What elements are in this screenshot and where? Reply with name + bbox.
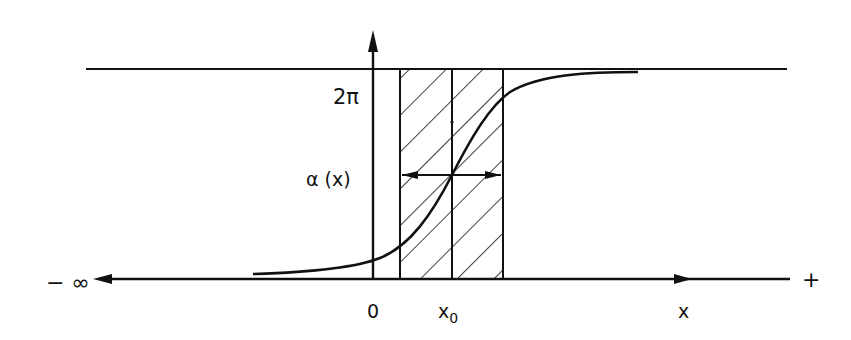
label-2pi: 2π — [333, 85, 359, 109]
center-dot — [450, 120, 453, 123]
label-minus-infinity: − ∞ — [46, 270, 90, 295]
label-axis-x: x — [678, 300, 689, 322]
left-arrowhead-icon — [93, 274, 112, 284]
right-arrow-mark-icon — [674, 274, 692, 284]
label-plus: + — [802, 267, 820, 292]
phase-profile-diagram: 2π α (x) 0 x0 x − ∞ + — [0, 0, 851, 340]
label-x0: x0 — [438, 300, 458, 326]
vertical-axis — [368, 30, 378, 279]
up-arrowhead-icon — [368, 30, 378, 52]
label-alpha-x: α (x) — [306, 168, 351, 190]
label-origin: 0 — [367, 300, 379, 322]
